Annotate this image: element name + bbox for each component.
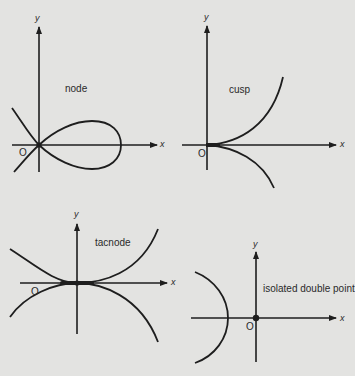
isolated-title: isolated double point (263, 284, 355, 294)
node-y-label: y (35, 14, 40, 23)
cusp-title: cusp (229, 85, 250, 95)
tacnode-panel (10, 224, 167, 342)
tacnode-origin-label: O (31, 287, 39, 297)
tacnode-upper-curve (10, 229, 158, 283)
cusp-origin-label: O (198, 149, 206, 159)
isolated-origin-label: O (246, 322, 254, 332)
tacnode-title: tacnode (95, 238, 131, 248)
node-title: node (65, 84, 87, 94)
node-origin-label: O (19, 148, 27, 158)
cusp-origin-mark (206, 143, 220, 147)
isolated-panel (191, 252, 336, 363)
cusp-x-label: x (340, 140, 345, 149)
cusp-panel (182, 26, 336, 188)
cusp-y-label: y (204, 13, 209, 22)
tacnode-origin-point (74, 280, 79, 285)
node-x-label: x (160, 140, 165, 149)
node-panel (12, 27, 157, 172)
cusp-lower-branch (207, 145, 274, 188)
isolated-y-label: y (253, 240, 258, 249)
isolated-x-label: x (340, 314, 345, 323)
node-origin-point (36, 142, 41, 147)
tacnode-x-label: x (171, 278, 176, 287)
node-loop-curve (12, 108, 121, 172)
tacnode-y-label: y (74, 210, 79, 219)
